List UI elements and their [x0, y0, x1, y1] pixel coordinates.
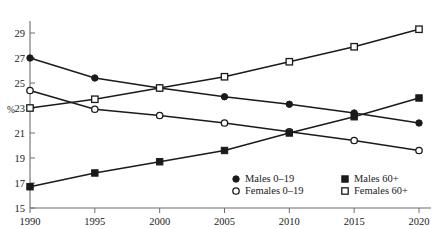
- legend-marker-3: [342, 188, 348, 194]
- x-tick-label: 2015: [344, 216, 365, 227]
- series-line-0: [30, 58, 419, 123]
- data-point-s2-3: [221, 147, 227, 153]
- data-point-s3-1: [92, 96, 98, 102]
- data-point-s0-4: [286, 101, 292, 107]
- y-tick-label: 21: [15, 128, 26, 139]
- data-point-s2-5: [351, 114, 357, 120]
- line-chart: 1517192123252729%19901995200020052010201…: [0, 0, 436, 229]
- x-tick-label: 2000: [149, 216, 170, 227]
- data-point-s3-5: [351, 44, 357, 50]
- data-point-s1-0: [27, 87, 33, 93]
- y-tick-label: 25: [15, 78, 26, 89]
- data-point-s1-1: [92, 106, 98, 112]
- x-tick-label: 2020: [409, 216, 430, 227]
- data-point-s3-2: [156, 85, 162, 91]
- legend-label-3: Females 60+: [354, 185, 408, 196]
- y-axis-title: %: [7, 105, 15, 115]
- data-point-s0-1: [92, 75, 98, 81]
- legend-marker-1: [342, 176, 348, 182]
- data-point-s2-1: [92, 170, 98, 176]
- data-point-s2-4: [286, 130, 292, 136]
- y-tick-label: 15: [15, 203, 26, 214]
- legend-marker-0: [233, 176, 239, 182]
- data-point-s3-6: [416, 26, 422, 32]
- y-tick-label: 17: [15, 178, 26, 189]
- data-point-s2-2: [156, 159, 162, 165]
- data-point-s2-6: [416, 95, 422, 101]
- legend-label-0: Males 0–19: [245, 173, 294, 184]
- chart-container: 1517192123252729%19901995200020052010201…: [0, 0, 436, 229]
- y-tick-label: 29: [15, 28, 26, 39]
- data-point-s0-6: [416, 120, 422, 126]
- x-tick-label: 1990: [20, 216, 41, 227]
- data-point-s2-0: [27, 184, 33, 190]
- data-point-s1-3: [221, 120, 227, 126]
- y-tick-label: 23: [15, 103, 26, 114]
- legend-label-2: Females 0–19: [245, 185, 304, 196]
- data-point-s1-5: [351, 137, 357, 143]
- data-point-s3-3: [221, 74, 227, 80]
- data-point-s1-2: [156, 112, 162, 118]
- data-point-s3-4: [286, 59, 292, 65]
- x-tick-label: 2010: [279, 216, 300, 227]
- data-point-s3-0: [27, 105, 33, 111]
- data-point-s0-0: [27, 55, 33, 61]
- x-tick-label: 2005: [214, 216, 235, 227]
- y-tick-label: 19: [15, 153, 26, 164]
- legend-label-1: Males 60+: [354, 173, 399, 184]
- legend-marker-2: [233, 188, 239, 194]
- y-tick-label: 27: [15, 53, 26, 64]
- data-point-s1-6: [416, 147, 422, 153]
- x-tick-label: 1995: [84, 216, 105, 227]
- data-point-s0-3: [221, 94, 227, 100]
